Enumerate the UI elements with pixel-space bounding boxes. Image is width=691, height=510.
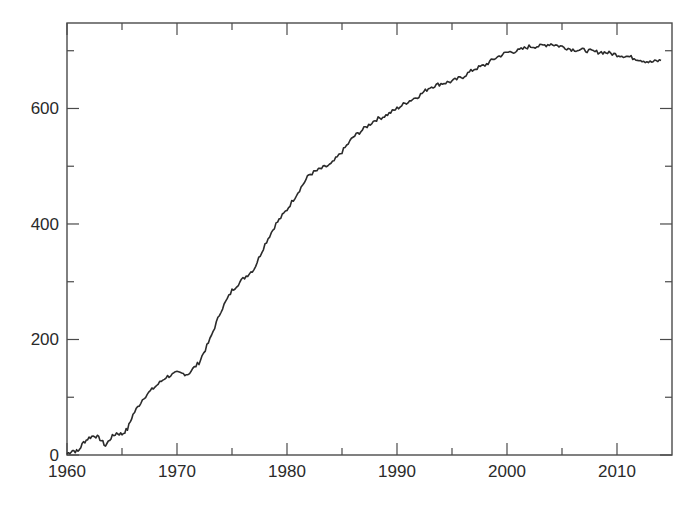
x-axis-ticks: [67, 23, 617, 455]
y-tick-label: 200: [31, 330, 59, 349]
y-tick-label: 0: [50, 446, 59, 465]
x-tick-label: 2000: [488, 462, 526, 481]
x-tick-label: 1990: [378, 462, 416, 481]
x-tick-label: 1970: [158, 462, 196, 481]
x-axis-tick-labels: 196019701980199020002010: [48, 462, 636, 481]
x-tick-label: 1980: [268, 462, 306, 481]
y-axis-tick-labels: 0200400600: [31, 99, 59, 465]
data-line: [67, 44, 661, 454]
x-tick-label: 2010: [598, 462, 636, 481]
y-tick-label: 600: [31, 99, 59, 118]
y-tick-label: 400: [31, 215, 59, 234]
line-chart: 196019701980199020002010 0200400600: [0, 0, 691, 510]
plot-area-border: [67, 23, 672, 455]
plot-frame: [67, 23, 672, 455]
y-axis-ticks: [67, 51, 672, 455]
